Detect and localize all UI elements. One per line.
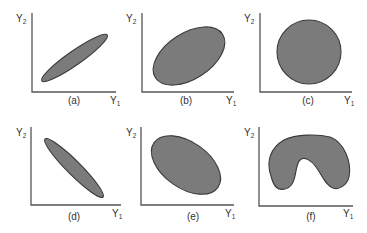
- caption-f: (f): [306, 211, 315, 222]
- y-axis-label-b: Y2: [126, 13, 137, 25]
- y-axis-label-e: Y2: [126, 127, 137, 139]
- correlation-shapes-figure: Y2 Y1 (a) Y2 Y1 (b) Y2 Y1 (c) Y2 Y1 (d) …: [0, 0, 367, 233]
- horseshoe-f: [269, 135, 350, 189]
- caption-e: (e): [187, 211, 199, 222]
- x-axis-label-c: Y1: [344, 95, 355, 107]
- circle-c: [277, 20, 341, 84]
- ellipse-b: [143, 15, 235, 97]
- caption-a: (a): [68, 95, 80, 106]
- y-axis-label-c: Y2: [244, 13, 255, 25]
- ellipse-a: [38, 29, 112, 86]
- x-axis-label-d: Y1: [112, 208, 123, 220]
- y-axis-label-f: Y2: [244, 127, 255, 139]
- panel-f: Y2 Y1 (f): [244, 127, 354, 222]
- caption-d: (d): [68, 211, 80, 222]
- panel-d: Y2 Y1 (d): [16, 127, 123, 222]
- x-axis-label-b: Y1: [226, 95, 237, 107]
- ellipse-d: [40, 134, 108, 202]
- y-axis-label-a: Y2: [16, 13, 27, 25]
- panel-b: Y2 Y1 (b): [126, 13, 237, 107]
- caption-c: (c): [302, 95, 314, 106]
- x-axis-label-f: Y1: [343, 208, 354, 220]
- panel-c: Y2 Y1 (c): [244, 13, 355, 107]
- y-axis-label-d: Y2: [16, 127, 27, 139]
- panel-e: Y2 Y1 (e): [126, 124, 236, 222]
- caption-b: (b): [180, 95, 192, 106]
- x-axis-label-e: Y1: [225, 208, 236, 220]
- panel-a: Y2 Y1 (a): [16, 13, 121, 107]
- ellipse-e: [141, 124, 231, 206]
- x-axis-label-a: Y1: [110, 95, 121, 107]
